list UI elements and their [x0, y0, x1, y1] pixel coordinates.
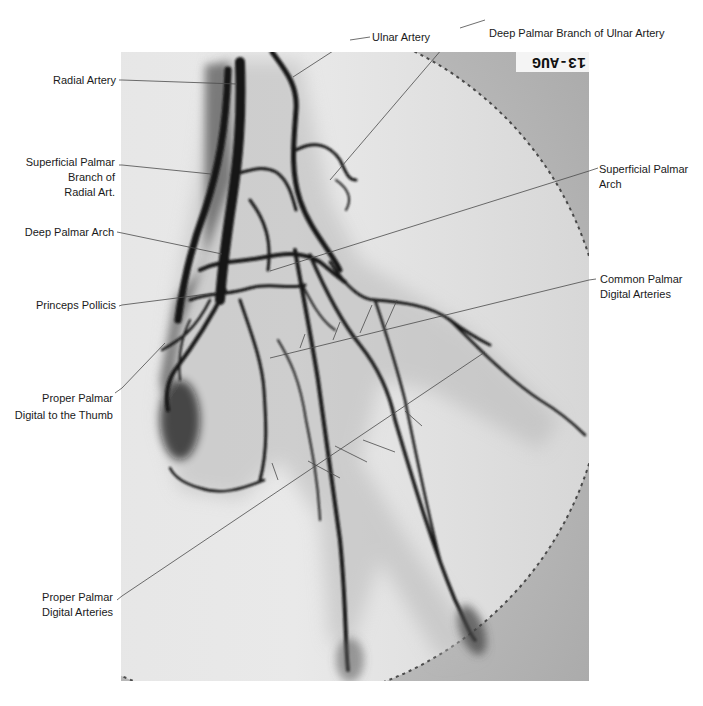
- label-line: Superficial Palmar: [26, 155, 115, 170]
- label-princeps-pollicis: Princeps Pollicis: [36, 298, 116, 313]
- label-line: Proper Palmar: [15, 390, 113, 407]
- label-line: Digital to the Thumb: [15, 407, 113, 424]
- label-line: Proper Palmar: [42, 590, 113, 605]
- label-deep-palmar-arch: Deep Palmar Arch: [25, 225, 114, 240]
- label-line: Common Palmar: [600, 272, 683, 287]
- label-line: Princeps Pollicis: [36, 298, 116, 313]
- label-superficial-palmar-branch: Superficial Palmar Branch of Radial Art.: [26, 155, 115, 200]
- label-common-palmar-digital: Common Palmar Digital Arteries: [600, 272, 683, 302]
- label-superficial-palmar-arch: Superficial Palmar Arch: [599, 162, 688, 192]
- label-deep-palmar-branch-ulnar: Deep Palmar Branch of Ulnar Artery: [489, 26, 664, 41]
- label-line: Arch: [599, 177, 688, 192]
- label-line: Digital Arteries: [600, 287, 683, 302]
- label-ulnar-artery: Ulnar Artery: [372, 30, 430, 45]
- label-proper-palmar-digital: Proper Palmar Digital Arteries: [42, 590, 113, 620]
- label-line: Deep Palmar Branch of Ulnar Artery: [489, 26, 664, 41]
- label-radial-artery: Radial Artery: [53, 73, 116, 88]
- label-line: Ulnar Artery: [372, 30, 430, 45]
- label-line: Superficial Palmar: [599, 162, 688, 177]
- label-line: Deep Palmar Arch: [25, 225, 114, 240]
- label-proper-palmar-thumb: Proper Palmar Digital to the Thumb: [15, 390, 113, 424]
- label-line: Radial Artery: [53, 73, 116, 88]
- film-marker: 13-AUG: [532, 53, 586, 70]
- label-line: Digital Arteries: [42, 605, 113, 620]
- label-line: Branch of: [26, 170, 115, 185]
- label-line: Radial Art.: [26, 185, 115, 200]
